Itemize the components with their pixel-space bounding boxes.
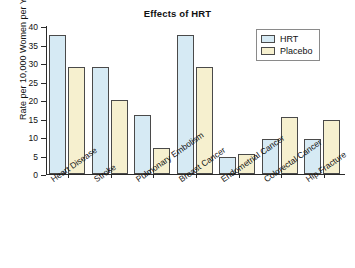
legend-item-hrt[interactable]: HRT bbox=[261, 33, 313, 45]
legend-label-placebo: Placebo bbox=[280, 47, 313, 56]
legend-label-hrt: HRT bbox=[280, 35, 298, 44]
legend-swatch-hrt-icon bbox=[261, 35, 275, 43]
y-axis-tick bbox=[41, 120, 46, 121]
chart-figure: Effects of HRT Rate per 10,000 Women per… bbox=[0, 0, 355, 268]
y-axis-tick bbox=[41, 157, 46, 158]
y-axis-tick bbox=[41, 64, 46, 65]
y-axis-tick-label: 10 bbox=[16, 134, 38, 143]
y-axis-tick-label: 35 bbox=[16, 42, 38, 51]
chart-legend: HRT Placebo bbox=[256, 29, 320, 61]
chart-title: Effects of HRT bbox=[0, 8, 355, 19]
y-axis-tick bbox=[41, 27, 46, 28]
y-axis-tick bbox=[41, 46, 46, 47]
legend-swatch-placebo-icon bbox=[261, 47, 275, 55]
bar-hrt[interactable] bbox=[49, 35, 66, 174]
bar-hrt[interactable] bbox=[92, 67, 109, 174]
y-axis-tick-label: 20 bbox=[16, 97, 38, 106]
legend-item-placebo[interactable]: Placebo bbox=[261, 45, 313, 57]
y-axis-tick-label: 30 bbox=[16, 60, 38, 69]
y-axis-tick-label: 0 bbox=[16, 171, 38, 180]
y-axis-tick-label: 15 bbox=[16, 116, 38, 125]
y-axis-tick-label: 5 bbox=[16, 153, 38, 162]
y-axis-tick-label: 25 bbox=[16, 79, 38, 88]
y-axis-tick bbox=[41, 83, 46, 84]
x-axis-category-labels: Heart DiseaseStrokePulmonary EmbolismBre… bbox=[46, 176, 355, 266]
y-axis-tick bbox=[41, 138, 46, 139]
y-axis-tick bbox=[41, 101, 46, 102]
y-axis-tick-label: 40 bbox=[16, 23, 38, 32]
